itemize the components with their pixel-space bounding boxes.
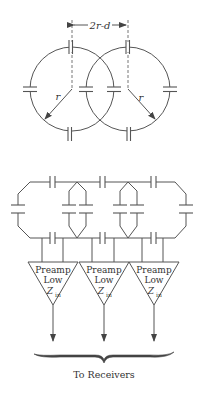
impedance-subscript: in xyxy=(106,291,112,298)
preamp-label: Preamp xyxy=(35,265,71,275)
output-label: To Receivers xyxy=(73,369,135,380)
preamp-label: Low xyxy=(43,275,62,285)
capacitor-icon xyxy=(50,176,55,188)
crossover-loop-1 xyxy=(69,182,86,238)
capacitor-icon xyxy=(107,87,121,92)
capacitor-icon xyxy=(11,205,25,213)
capacitor-icon xyxy=(100,176,105,188)
preamp-3: Preamp Low Z in xyxy=(129,262,179,341)
right-radius-label: r xyxy=(139,92,145,103)
preamp-1: Preamp Low Z in xyxy=(28,262,78,341)
dimension-label: 2r-d xyxy=(89,20,111,31)
capacitor-icon xyxy=(100,232,105,244)
capacitor-icon xyxy=(23,87,37,92)
capacitor-icon xyxy=(79,87,93,92)
overlapping-coils: 2r-d r r xyxy=(23,20,177,142)
crossover-loop-2 xyxy=(120,182,137,238)
capacitor-icon xyxy=(127,127,131,141)
capacitor-icon xyxy=(68,127,72,141)
preamp-feed-lines xyxy=(42,238,163,262)
impedance-subscript: in xyxy=(156,291,162,298)
capacitor-icon xyxy=(130,205,144,213)
capacitor-icon xyxy=(126,40,130,54)
capacitor-icon xyxy=(151,176,156,188)
capacitor-icon xyxy=(62,205,76,213)
left-radius-label: r xyxy=(56,91,62,102)
impedance-subscript: in xyxy=(55,291,61,298)
capacitor-icon xyxy=(50,232,55,244)
impedance-label: Z xyxy=(147,286,155,296)
brace-icon xyxy=(34,352,174,363)
capacitor-icon xyxy=(69,40,73,54)
coil-array-diagram: 2r-d r r xyxy=(0,0,201,396)
capacitor-icon xyxy=(179,205,193,213)
preamp-label: Low xyxy=(94,275,113,285)
capacitor-icon xyxy=(151,232,156,244)
preamp-label: Low xyxy=(144,275,163,285)
diagram-canvas: 2r-d r r xyxy=(0,0,201,396)
impedance-label: Z xyxy=(97,286,105,296)
impedance-label: Z xyxy=(46,286,54,296)
left-loop-wire xyxy=(18,182,50,238)
preamp-2: Preamp Low Z in xyxy=(79,262,129,341)
preamp-label: Preamp xyxy=(136,265,172,275)
coil-chain-schematic: Preamp Low Z in Preamp Low Z in Preamp L… xyxy=(11,176,193,380)
capacitor-icon xyxy=(79,205,93,213)
capacitor-icon xyxy=(163,87,177,92)
capacitor-icon xyxy=(113,205,127,213)
preamp-label: Preamp xyxy=(86,265,122,275)
